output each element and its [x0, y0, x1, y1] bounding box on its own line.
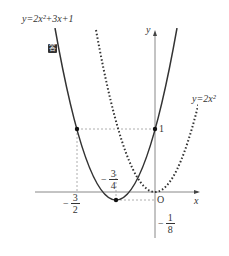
answer-badge-icon: 答	[48, 44, 57, 53]
minus-sign: −	[158, 218, 164, 229]
fraction-neg-3-2: − 32	[63, 192, 80, 215]
point-neg3/2-1	[75, 127, 79, 131]
fraction-neg-1-8: − 18	[158, 212, 175, 235]
numerator: 3	[111, 168, 116, 179]
numerator: 3	[73, 192, 78, 203]
origin-label: O	[157, 194, 164, 205]
fraction-neg-3-4: − 34	[101, 168, 118, 191]
denominator: 8	[168, 224, 173, 235]
y-axis-arrow-icon	[153, 30, 157, 36]
x-axis-arrow-icon	[194, 190, 200, 194]
denominator: 2	[73, 204, 78, 215]
point-y-intercept	[153, 127, 157, 131]
minus-sign: −	[101, 174, 107, 185]
numerator: 1	[168, 212, 173, 223]
vertex-point	[114, 198, 118, 202]
y-axis-label: y	[146, 24, 150, 35]
x-axis-label: x	[194, 195, 198, 206]
quadratic-equation-label: y=2x²+3x+1	[22, 13, 74, 24]
minus-sign: −	[63, 198, 69, 209]
graph-canvas	[0, 0, 229, 256]
parabola-equation-label: y=2x²	[192, 93, 216, 104]
denominator: 4	[111, 180, 116, 191]
y-intercept-label: 1	[159, 123, 164, 134]
